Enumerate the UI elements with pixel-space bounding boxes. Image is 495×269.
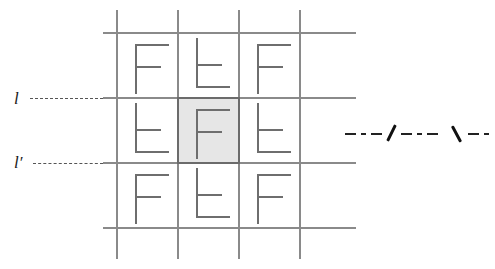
f-lower-arm	[135, 66, 161, 68]
grid-cell-glyph-r1c3	[257, 44, 295, 94]
f-stem	[135, 174, 137, 224]
ray-segment-2	[361, 133, 366, 135]
leader-line-l-prime	[33, 163, 103, 164]
ray-segment-1	[345, 133, 356, 135]
grid-vertical-line-4	[299, 10, 301, 259]
leader-line-l	[30, 98, 103, 99]
f-upper-arm	[257, 174, 291, 176]
f-upper-arm	[196, 64, 222, 66]
grid-cell-glyph-r2c3	[257, 103, 295, 153]
grid-cell-glyph-r2c1	[135, 103, 173, 153]
grid-cell-glyph-r3c2	[196, 168, 234, 218]
ray-segment-7	[468, 133, 479, 135]
f-upper-arm	[196, 109, 230, 111]
ray-chevron-tick-2	[451, 125, 462, 142]
f-lower-arm	[257, 66, 283, 68]
ray-chevron-tick-1	[386, 124, 397, 141]
f-upper-arm	[257, 44, 291, 46]
ray-segment-4	[401, 133, 412, 135]
f-stem	[196, 168, 198, 218]
f-stem	[135, 103, 137, 153]
f-upper-arm	[196, 194, 222, 196]
grid-cell-glyph-r3c1	[135, 174, 173, 224]
ray-segment-6	[427, 133, 438, 135]
f-upper-arm	[257, 129, 283, 131]
grid-horizontal-line-4	[103, 227, 356, 229]
grid-horizontal-line-1	[103, 32, 356, 34]
f-stem	[196, 38, 198, 88]
f-lower-arm	[196, 131, 222, 133]
f-lower-arm	[257, 196, 283, 198]
f-lower-arm	[257, 151, 291, 153]
f-upper-arm	[135, 129, 161, 131]
figure-canvas: l l′	[0, 0, 495, 269]
ray-segment-8	[484, 133, 489, 135]
label-line-l: l	[14, 90, 19, 107]
f-lower-arm	[135, 151, 169, 153]
grid-cell-glyph-r3c3	[257, 174, 295, 224]
ray-segment-3	[371, 133, 382, 135]
f-stem	[257, 174, 259, 224]
f-stem	[135, 44, 137, 94]
f-upper-arm	[135, 44, 169, 46]
grid-cell-glyph-r1c1	[135, 44, 173, 94]
f-lower-arm	[196, 86, 230, 88]
f-stem	[257, 103, 259, 153]
f-lower-arm	[135, 196, 161, 198]
f-upper-arm	[135, 174, 169, 176]
f-stem	[257, 44, 259, 94]
label-line-l-prime: l′	[14, 154, 22, 171]
grid-cell-glyph-r1c2	[196, 38, 234, 88]
f-lower-arm	[196, 216, 230, 218]
ray-segment-5	[417, 133, 422, 135]
f-stem	[196, 109, 198, 159]
grid-vertical-line-1	[116, 10, 118, 259]
grid-cell-glyph-r2c2	[196, 109, 234, 159]
